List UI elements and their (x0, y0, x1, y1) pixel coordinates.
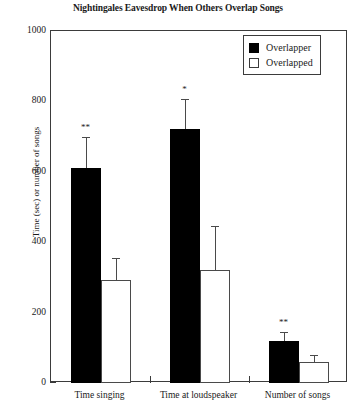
y-tick-label: 800 (4, 95, 46, 105)
error-bar-cap (280, 332, 288, 333)
x-tick-separator (150, 376, 151, 383)
bar (269, 341, 299, 383)
error-bar-stem (314, 355, 315, 362)
legend-label: Overlapper (266, 42, 311, 53)
legend-item: Overlapper (249, 40, 313, 55)
legend-swatch-open-icon (249, 58, 259, 68)
plot-area: ***** (50, 30, 347, 382)
bar (101, 280, 131, 383)
error-bar-stem (185, 99, 186, 129)
error-bar-stem (116, 258, 117, 280)
bar (299, 362, 329, 383)
error-bar-cap (112, 258, 120, 259)
bar (170, 129, 200, 383)
x-tick-separator (249, 376, 250, 383)
significance-marker: ** (74, 123, 98, 132)
legend-item: Overlapped (249, 55, 313, 70)
error-bar-cap (211, 226, 219, 227)
chart-figure: Nightingales Eavesdrop When Others Overl… (0, 0, 356, 412)
legend-label: Overlapped (266, 57, 313, 68)
bar (200, 270, 230, 383)
y-tick-label: 400 (4, 236, 46, 246)
error-bar-stem (215, 226, 216, 270)
y-tick-major (50, 382, 56, 383)
chart-title: Nightingales Eavesdrop When Others Overl… (0, 3, 356, 13)
y-tick-label: 200 (4, 307, 46, 317)
error-bar-stem (86, 137, 87, 169)
error-bar-stem (284, 332, 285, 341)
y-tick-label: 600 (4, 166, 46, 176)
error-bar-cap (181, 99, 189, 100)
error-bar-cap (82, 137, 90, 138)
bar (71, 168, 101, 383)
significance-marker: * (173, 85, 197, 94)
y-tick-label: 0 (4, 377, 46, 387)
error-bar-cap (310, 355, 318, 356)
significance-marker: ** (272, 318, 296, 327)
legend-swatch-filled-icon (249, 43, 259, 53)
y-tick-label: 1000 (4, 25, 46, 35)
chart-legend: OverlapperOverlapped (243, 35, 321, 75)
x-tick-label: Number of songs (238, 390, 356, 400)
